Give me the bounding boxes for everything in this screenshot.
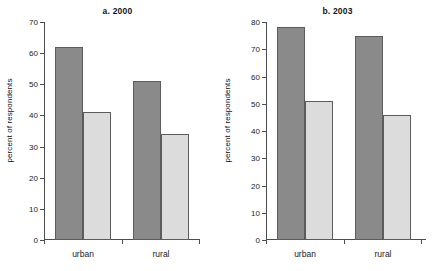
y-tick-mark xyxy=(262,77,266,78)
panel-b-y-axis-title-text: percent of respondents xyxy=(223,78,232,162)
y-tick-label: 40 xyxy=(29,111,38,120)
y-tick-label: 20 xyxy=(29,173,38,182)
x-axis-label-urban: urban xyxy=(294,249,316,259)
panel-b-title: b. 2003 xyxy=(218,6,435,16)
x-axis-label-rural: rural xyxy=(374,249,391,259)
panel-a-y-axis-title-text: percent of respondents xyxy=(5,78,14,162)
y-tick-label: 10 xyxy=(251,208,260,217)
bar-rural-series-1 xyxy=(133,81,161,240)
bar-rural-series-2 xyxy=(383,115,411,240)
panel-b-y-axis-title: percent of respondents xyxy=(220,0,234,240)
y-tick-mark xyxy=(40,53,44,54)
y-tick-mark xyxy=(262,158,266,159)
x-tick-mark xyxy=(344,240,345,244)
chart-panel-b: b. 2003 percent of respondents 010203040… xyxy=(218,0,435,271)
y-tick-mark xyxy=(40,84,44,85)
x-axis-label-urban: urban xyxy=(72,249,94,259)
panel-b-y-axis-line xyxy=(266,22,267,240)
y-tick-label: 70 xyxy=(251,45,260,54)
panel-a-title: a. 2000 xyxy=(0,6,217,16)
panel-a-plot-area: 010203040506070urbanrural xyxy=(44,22,200,240)
y-tick-mark xyxy=(262,104,266,105)
y-tick-label: 50 xyxy=(251,99,260,108)
bar-urban-series-1 xyxy=(55,47,83,240)
y-tick-label: 0 xyxy=(34,236,38,245)
x-tick-mark xyxy=(122,240,123,244)
panel-a-y-axis-title: percent of respondents xyxy=(2,0,16,240)
y-tick-mark xyxy=(262,22,266,23)
bar-rural-series-1 xyxy=(355,36,383,240)
y-tick-mark xyxy=(262,186,266,187)
bar-urban-series-2 xyxy=(305,101,333,240)
x-tick-mark xyxy=(266,240,267,244)
y-tick-mark xyxy=(40,209,44,210)
bar-rural-series-2 xyxy=(161,134,189,240)
y-tick-label: 70 xyxy=(29,18,38,27)
y-tick-mark xyxy=(262,49,266,50)
y-tick-label: 80 xyxy=(251,18,260,27)
chart-panel-a: a. 2000 percent of respondents 010203040… xyxy=(0,0,217,271)
bar-urban-series-1 xyxy=(277,27,305,240)
y-tick-label: 60 xyxy=(29,49,38,58)
panel-b-plot-area: 01020304050607080urbanrural xyxy=(266,22,422,240)
panel-a-y-axis-line xyxy=(44,22,45,240)
x-tick-mark xyxy=(44,240,45,244)
x-tick-mark xyxy=(421,240,422,244)
y-tick-label: 50 xyxy=(29,80,38,89)
y-tick-mark xyxy=(262,131,266,132)
figure: a. 2000 percent of respondents 010203040… xyxy=(0,0,435,271)
y-tick-mark xyxy=(40,147,44,148)
y-tick-mark xyxy=(40,22,44,23)
y-tick-label: 10 xyxy=(29,204,38,213)
x-tick-mark xyxy=(199,240,200,244)
y-tick-label: 30 xyxy=(251,154,260,163)
y-tick-label: 0 xyxy=(256,236,260,245)
bar-urban-series-2 xyxy=(83,112,111,240)
y-tick-label: 40 xyxy=(251,127,260,136)
y-tick-label: 20 xyxy=(251,181,260,190)
y-tick-label: 60 xyxy=(251,72,260,81)
y-tick-label: 30 xyxy=(29,142,38,151)
y-tick-mark xyxy=(262,213,266,214)
y-tick-mark xyxy=(40,115,44,116)
y-tick-mark xyxy=(40,178,44,179)
x-axis-label-rural: rural xyxy=(152,249,169,259)
